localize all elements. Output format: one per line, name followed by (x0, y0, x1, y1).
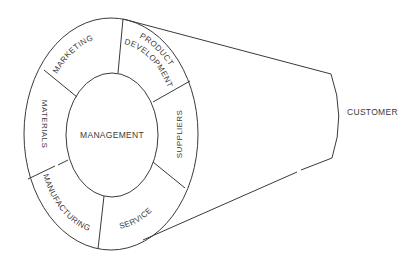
center-label-management: MANAGEMENT (80, 130, 144, 140)
divider-marketing-product (118, 19, 123, 73)
cone-bottom-edge-end (301, 158, 332, 170)
cone-bottom-edge (143, 172, 297, 240)
cone-customer-arc (331, 74, 339, 158)
divider-manufacturing-materials-inner (58, 160, 68, 165)
cone-label-customer: CUSTOMER (347, 107, 398, 117)
customer-cone (123, 19, 339, 240)
segment-label-manufacturing: MANUFACTURING (41, 173, 92, 233)
customer-cone-diagram: MARKETING PRODUCT DEVELOPMENT SUPPLIERS … (0, 0, 413, 267)
divider-service-manufacturing (98, 196, 104, 249)
divider-suppliers-service (153, 162, 185, 188)
segment-label-suppliers: SUPPLIERS (175, 110, 184, 159)
segment-label-service: SERVICE (118, 206, 153, 231)
divider-materials-marketing (44, 70, 77, 97)
segment-label-materials: MATERIALS (40, 100, 49, 148)
segment-label-marketing: MARKETING (51, 33, 95, 75)
